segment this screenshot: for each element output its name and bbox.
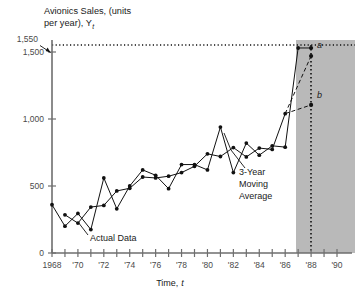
data-point [206,152,210,156]
data-point [270,144,274,148]
data-point [141,175,145,179]
data-point [231,171,235,175]
series-points-actual-data [50,46,300,231]
data-point [283,112,287,116]
data-point [219,125,223,129]
data-point [141,168,145,172]
data-point [270,148,274,152]
data-point [115,189,119,193]
x-axis-title-text: Time, [156,278,178,288]
data-point [219,155,223,159]
x-tick-label: '84 [254,260,265,270]
forecast-label-a: a [317,40,322,50]
y-tick-label: 1,000 [23,114,45,124]
data-point [128,184,132,188]
data-point [167,174,171,178]
forecast-point [309,103,313,107]
x-tick-label: '72 [98,260,109,270]
data-point [154,173,158,177]
x-tick-label: '74 [124,260,135,270]
forecast-shaded-region [296,40,355,253]
data-point [89,205,93,209]
x-tick-label: 1968 [43,260,62,270]
y-tick-label: 500 [30,181,44,191]
y-tick-label-1550: 1,550 [17,34,39,44]
forecast-point [309,54,313,58]
data-point [257,146,261,150]
data-point [50,203,54,207]
y-tick-label: 0 [39,248,44,258]
actual-data-label: Actual Data [90,233,137,243]
data-point [180,163,184,167]
moving-average-label-line-2: Moving [239,179,268,189]
x-axis-title-variable: t [181,278,184,288]
x-tick-label: '70 [72,260,83,270]
x-axis-title: Time,t [156,278,184,288]
x-axis-tick-labels: 1968'70'72'74'76'78'80'82'84'86'88'90 [43,260,343,270]
forecast-point-a-marker [309,46,313,50]
moving-average-label-line-3: Average [239,191,272,201]
x-tick-label: '86 [280,260,291,270]
data-point [283,145,287,149]
data-point [231,146,235,150]
chart-title-line-1: Avionics Sales, (units [44,6,132,16]
x-tick-label: '82 [228,260,239,270]
moving-average-label-line-1: 3-Year [239,167,265,177]
data-point [244,155,248,159]
data-point [206,168,210,172]
forecast-label-b: b [317,90,322,100]
y-axis-tick-labels: 05001,0001,5001,550 [17,34,45,258]
avionics-sales-chart: 05001,0001,5001,550 1968'70'72'74'76'78'… [0,0,355,294]
data-point [102,204,106,208]
chart-title-subscript: t [92,23,95,30]
chart-title-line-2: per year), Yt [44,18,95,30]
data-point [180,171,184,175]
x-tick-label: '90 [331,260,342,270]
data-point [257,153,261,157]
chart-title-line-2-text: per year), Y [44,18,92,28]
data-point [63,213,67,217]
series-line-actual-data [52,48,298,230]
data-point [115,207,119,211]
data-point [76,212,80,216]
data-point [193,163,197,167]
data-point [102,176,106,180]
data-point [296,46,300,50]
x-tick-label: '80 [202,260,213,270]
data-point [244,141,248,145]
x-tick-label: '76 [150,260,161,270]
y-tick-label: 1,500 [23,47,45,57]
x-tick-label: '88 [306,260,317,270]
data-point [63,224,67,228]
data-point [89,228,93,232]
x-tick-label: '78 [176,260,187,270]
chart-plot-area: 05001,0001,5001,550 1968'70'72'74'76'78'… [0,0,355,294]
data-point [167,187,171,191]
